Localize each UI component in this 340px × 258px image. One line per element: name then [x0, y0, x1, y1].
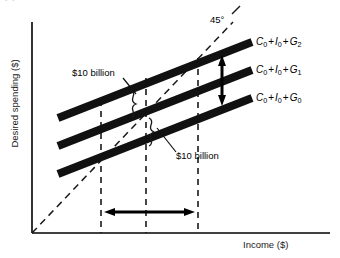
series-label-g0-plus2: +: [282, 92, 290, 103]
callout-gap-lower: $10 billion: [176, 150, 219, 161]
series-label-g0: C0+I0+G0: [256, 92, 301, 105]
series-label-g2-g-sub: 2: [297, 40, 301, 49]
series-label-g2-plus1: +: [267, 36, 275, 47]
callout-gap-upper: $10 billion: [72, 67, 115, 78]
series-label-g0-plus1: +: [267, 92, 275, 103]
x-axis-label: Income ($): [243, 239, 288, 250]
forty-five-degree-line: [32, 22, 233, 233]
horizontal-income-arrow: [104, 208, 195, 216]
aggregate-expenditure-figure: (b) ..... .... ... ... ...: [0, 0, 340, 258]
angle-leader-tick: [232, 6, 240, 14]
series-label-g0-g-sub: 0: [297, 96, 301, 105]
series-label-g1-plus1: +: [267, 64, 275, 75]
series-label-g1-plus2: +: [282, 64, 290, 75]
forty-five-degree-label: 45°: [210, 14, 224, 25]
y-axis-label: Desired spending ($): [9, 44, 20, 164]
series-label-g1: C0+I0+G1: [256, 64, 301, 77]
series-label-g2-plus2: +: [282, 36, 290, 47]
series-label-g1-g-sub: 1: [297, 68, 301, 77]
series-label-g2: C0+I0+G2: [256, 36, 301, 49]
